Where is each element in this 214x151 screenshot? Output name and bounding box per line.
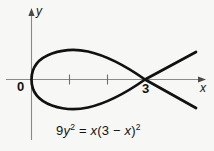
y-axis-label: y bbox=[36, 5, 42, 17]
x-tick-label-3: 3 bbox=[142, 82, 149, 95]
origin-label: 0 bbox=[17, 80, 24, 93]
eq-minus: − bbox=[113, 123, 121, 138]
lower-branch-curve bbox=[145, 80, 196, 109]
x-axis-label: x bbox=[200, 82, 206, 94]
eq-rhs-const: 3 bbox=[102, 123, 109, 138]
arrow-up-icon bbox=[28, 8, 34, 16]
upper-branch-curve bbox=[145, 52, 196, 80]
eq-equals: = bbox=[79, 123, 87, 138]
equation-caption: 9y2 = x(3 − x)2 bbox=[56, 124, 141, 137]
math-figure-strophoid: y x 0 3 9y2 = x(3 − x)2 bbox=[0, 0, 214, 151]
eq-lhs-exponent: 2 bbox=[70, 122, 75, 132]
eq-rhs-exponent: 2 bbox=[136, 122, 141, 132]
